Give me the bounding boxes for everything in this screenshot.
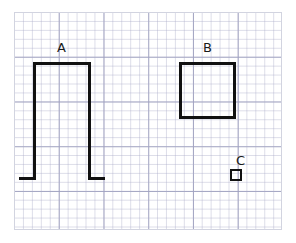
shape-b-outline bbox=[181, 64, 235, 118]
shape-b-label: B bbox=[203, 41, 212, 54]
shape-layer: A B C bbox=[0, 0, 296, 243]
shapes-svg bbox=[0, 0, 296, 243]
figure-canvas: A B C bbox=[0, 0, 296, 243]
shape-c-label: C bbox=[236, 154, 245, 167]
shape-a-outline bbox=[19, 64, 105, 179]
shape-c-outline bbox=[231, 170, 241, 180]
shape-a-label: A bbox=[57, 41, 66, 54]
